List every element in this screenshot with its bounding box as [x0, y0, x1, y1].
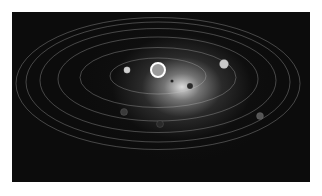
planet-lower-mid: [157, 121, 164, 128]
planet-lower-right: [257, 113, 264, 120]
planet-bright-upper-right: [220, 60, 229, 69]
planet-left-inner: [124, 67, 130, 73]
planet-small-right: [170, 79, 173, 82]
orbits-group: [16, 18, 300, 150]
space-background: [12, 12, 310, 182]
solar-system-illustration: [12, 12, 310, 182]
orbit-ring: [40, 29, 276, 133]
sun: [151, 63, 165, 77]
planet-dark-right: [187, 83, 193, 89]
orbit-ring: [58, 37, 258, 121]
planet-lower-left: [121, 109, 128, 116]
